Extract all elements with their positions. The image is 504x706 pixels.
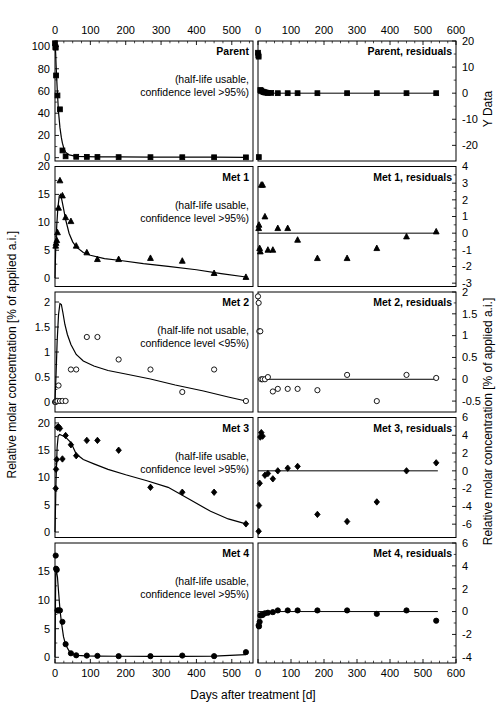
x-tick-label: 0 [52, 667, 58, 679]
data-point [95, 437, 100, 443]
data-point [257, 619, 262, 624]
x-tick-label: 200 [315, 667, 333, 679]
y-tick-label: 0 [462, 605, 468, 617]
data-point [180, 653, 185, 658]
data-point [270, 610, 275, 615]
data-point [344, 255, 350, 261]
y-tick-label: 1.5 [462, 308, 477, 320]
panel-title-parent: Parent [216, 45, 249, 57]
x-tick-label: 300 [152, 24, 170, 36]
panel-frame-met1 [55, 167, 253, 287]
y-tick-label: 10 [462, 61, 474, 73]
x-tick-label: 500 [414, 24, 432, 36]
y-tick-label: 2 [462, 447, 468, 459]
data-point [74, 653, 79, 658]
y-tick-label: 5 [44, 244, 50, 256]
panel-met1: 20151050Met 1(half-life usable,confidenc… [38, 160, 253, 286]
data-point [53, 466, 58, 472]
y-axis-label-right: Relative molar concentration [% of appli… [481, 298, 495, 545]
data-point [269, 91, 274, 96]
y-tick-label: 5 [44, 623, 50, 635]
y-tick-label: 0 [44, 396, 50, 408]
data-point [116, 447, 121, 453]
data-point [374, 611, 379, 616]
data-points-met2-residuals [255, 294, 438, 404]
x-tick-label: 400 [381, 667, 399, 679]
y-axis-label-right-top: Y Data [481, 90, 495, 127]
figure-container: 0204060801000100200300400500Parent(half-… [0, 0, 504, 706]
data-point [295, 91, 300, 96]
panel-note-line2: confidence level >95%) [140, 86, 249, 98]
data-point [262, 213, 268, 219]
y-tick-label: 1.5 [35, 321, 50, 333]
data-point [63, 432, 68, 438]
data-point [95, 155, 100, 160]
panel-note-line2: confidence level >95%) [140, 588, 249, 600]
data-point [148, 155, 153, 160]
panel-note-line1: (half-life not usable, [157, 324, 249, 336]
panel-note-line1: (half-life usable, [175, 199, 249, 211]
panel-title-met2: Met 2 [222, 296, 249, 308]
data-point [95, 334, 100, 339]
data-point [63, 642, 68, 647]
panel-frame-met4-residuals [258, 543, 456, 663]
data-point [345, 608, 350, 613]
data-point [63, 398, 68, 403]
data-point [116, 357, 121, 362]
panel-note-line1: (half-life usable, [175, 450, 249, 462]
x-tick-label: 500 [223, 667, 241, 679]
y-tick-label: 10 [38, 216, 50, 228]
data-point [285, 225, 291, 231]
x-tick-label: 200 [117, 24, 135, 36]
y-tick-label: 6 [462, 411, 468, 423]
data-point [84, 653, 89, 658]
y-tick-label: 3 [462, 177, 468, 189]
x-tick-label: 100 [81, 24, 99, 36]
data-point [404, 91, 409, 96]
data-point [212, 155, 217, 160]
panel-met3-residuals: 6420-2-4-6Met 3, residuals [256, 411, 472, 537]
data-point [244, 155, 249, 160]
data-point [148, 255, 154, 260]
data-point [265, 374, 270, 379]
data-point [68, 218, 74, 224]
data-point [212, 367, 217, 372]
data-point [434, 91, 439, 96]
data-point [84, 437, 89, 443]
y-tick-label: 4 [462, 429, 468, 441]
y-tick-label: -2 [462, 260, 472, 272]
data-point [60, 619, 65, 624]
data-point [270, 247, 276, 253]
data-point [243, 398, 248, 403]
data-point [84, 154, 89, 159]
data-point [315, 388, 320, 393]
y-tick-label: 2 [44, 296, 50, 308]
data-point [211, 489, 216, 495]
panel-title-met3-residuals: Met 3, residuals [373, 422, 452, 434]
panel-frame-parent-residuals [258, 41, 456, 161]
y-tick-label: -10 [462, 113, 478, 125]
data-points-parent-residuals [256, 50, 439, 159]
panel-note-line2: confidence level >95%) [140, 463, 249, 475]
data-point [275, 386, 280, 391]
y-tick-label: -2 [462, 628, 472, 640]
data-point [68, 367, 73, 372]
data-point [258, 329, 263, 334]
data-point [295, 386, 300, 391]
y-tick-label: 80 [38, 63, 50, 75]
y-tick-label: 15 [38, 444, 50, 456]
data-points-met4 [53, 553, 248, 659]
data-point [68, 651, 73, 656]
data-points-parent [53, 41, 249, 160]
y-tick-label: 20 [38, 417, 50, 429]
panel-met2-residuals: 21.510.50-0.5Met 2, residuals [255, 286, 481, 412]
panel-met1-residuals: 43210-1-2-3Met 1, residuals [256, 160, 472, 289]
x-tick-label: 300 [152, 667, 170, 679]
data-point [315, 608, 320, 613]
y-tick-label: 5 [44, 499, 50, 511]
data-point [345, 372, 350, 377]
x-tick-label: 100 [282, 667, 300, 679]
x-tick-label: 300 [348, 24, 366, 36]
y-tick-label: 2 [462, 583, 468, 595]
data-point [148, 484, 153, 490]
